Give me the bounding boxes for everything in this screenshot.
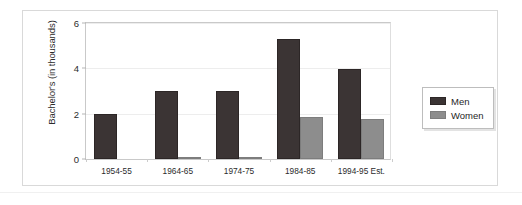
bar-group (147, 23, 208, 159)
y-tick-label: 0 (74, 154, 79, 165)
x-tick-label: 1994-95 Est. (338, 166, 385, 176)
bar-men-1974-75[interactable] (216, 91, 239, 159)
x-tick-mark (392, 159, 393, 162)
x-tick-mark (208, 159, 209, 162)
legend-swatch-women-icon (430, 111, 446, 119)
x-tick-label: 1964-65 (163, 166, 193, 176)
legend-label-men: Men (451, 96, 469, 107)
bar-chart: Bachelor's (in thousands) 02461954-55196… (23, 11, 497, 185)
legend-item-men[interactable]: Men (430, 94, 484, 108)
y-axis-title: Bachelor's (in thousands) (46, 3, 57, 143)
bar-group (270, 23, 331, 159)
bar-men-1994-95-est-[interactable] (338, 69, 361, 159)
bar-men-1964-65[interactable] (155, 91, 178, 159)
x-tick-label: 1974-75 (224, 166, 254, 176)
y-tick-label: 4 (74, 63, 79, 74)
figure-frame: Bachelor's (in thousands) 02461954-55196… (22, 10, 498, 186)
bar-men-1984-85[interactable] (277, 39, 300, 159)
x-tick-mark (331, 159, 332, 162)
x-tick-mark (147, 159, 148, 162)
y-tick-label: 6 (74, 18, 79, 29)
x-tick-mark (86, 159, 87, 162)
bar-women-1994-95-est-[interactable] (361, 119, 384, 159)
y-tick-label: 2 (74, 108, 79, 119)
bar-men-1954-55[interactable] (94, 114, 117, 159)
chart-legend[interactable]: Men Women (422, 87, 494, 129)
bar-women-1964-65[interactable] (178, 157, 201, 159)
legend-item-women[interactable]: Women (430, 108, 484, 122)
plot-inner: 02461954-551964-651974-751984-851994-95 … (86, 23, 390, 159)
x-tick-label: 1984-85 (285, 166, 315, 176)
x-tick-label: 1954-55 (101, 166, 131, 176)
x-tick-mark (270, 159, 271, 162)
bar-group (208, 23, 269, 159)
legend-swatch-men-icon (430, 97, 446, 105)
legend-label-women: Women (451, 110, 484, 121)
caption-divider (0, 192, 522, 193)
bar-women-1974-75[interactable] (239, 157, 262, 159)
bar-group (331, 23, 392, 159)
bar-women-1984-85[interactable] (300, 117, 323, 159)
bar-group (86, 23, 147, 159)
plot-area: 02461954-551964-651974-751984-851994-95 … (85, 22, 391, 160)
